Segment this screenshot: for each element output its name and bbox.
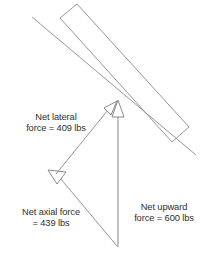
net-upward-force-label-line2: force = 600 lbs — [120, 213, 208, 224]
beam-axis-line — [32, 17, 196, 155]
net-lateral-force-label-line1: Net lateral — [17, 112, 95, 123]
net-lateral-force-label: Net lateral force = 409 lbs — [17, 112, 95, 134]
net-axial-force-label: Net axial force = 439 lbs — [6, 207, 96, 229]
net-axial-force-label-line2: = 439 lbs — [6, 218, 96, 229]
net-upward-force-label: Net upward force = 600 lbs — [120, 202, 208, 224]
net-lateral-force-label-line2: force = 409 lbs — [17, 123, 95, 134]
net-upward-force-label-line1: Net upward — [120, 202, 208, 213]
net-axial-force-label-line1: Net axial force — [6, 207, 96, 218]
force-diagram: Net lateral force = 409 lbs Net axial fo… — [0, 0, 213, 255]
